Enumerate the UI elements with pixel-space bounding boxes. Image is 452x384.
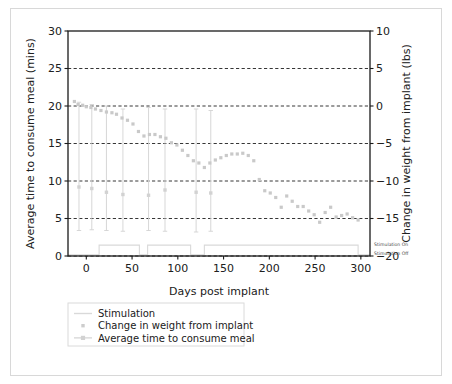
weight-marker bbox=[89, 106, 92, 109]
weight-marker bbox=[73, 100, 76, 103]
stimulation-step-line bbox=[68, 245, 370, 255]
series-average-time-to-consume-meal bbox=[77, 102, 213, 232]
weight-marker bbox=[76, 103, 79, 106]
weight-marker bbox=[115, 113, 118, 116]
weight-marker bbox=[94, 107, 97, 110]
weight-marker bbox=[225, 154, 228, 157]
weight-marker bbox=[230, 152, 233, 155]
legend-marker-weight bbox=[81, 324, 84, 327]
tick-label-bottom-150: 150 bbox=[213, 262, 234, 275]
weight-marker bbox=[126, 119, 129, 122]
weight-marker bbox=[340, 214, 343, 217]
tick-label-right-5: 5 bbox=[376, 62, 383, 75]
weight-marker bbox=[203, 166, 206, 169]
tick-label-bottom-300: 300 bbox=[350, 262, 371, 275]
weight-marker bbox=[110, 111, 113, 114]
weight-marker bbox=[219, 156, 222, 159]
weight-marker bbox=[269, 191, 272, 194]
legend-label-1: Change in weight from implant bbox=[98, 320, 253, 331]
weight-marker bbox=[357, 218, 360, 221]
weight-marker bbox=[313, 213, 316, 216]
tick-label-bottom-200: 200 bbox=[259, 262, 280, 275]
weight-marker bbox=[137, 130, 140, 133]
meal-marker bbox=[105, 191, 108, 194]
series-change-in-weight-from-implant bbox=[73, 100, 360, 224]
weight-marker bbox=[197, 161, 200, 164]
weight-marker bbox=[159, 135, 162, 138]
weight-marker bbox=[148, 133, 151, 136]
y-axis-title-left: Average time to consume meal (mins) bbox=[24, 38, 37, 249]
weight-marker bbox=[99, 109, 102, 112]
weight-marker bbox=[170, 141, 173, 144]
weight-marker bbox=[120, 116, 123, 119]
tick-label-left-0: 0 bbox=[55, 250, 62, 263]
meal-marker bbox=[121, 193, 124, 196]
stimulation-on-label: Stimulation On bbox=[374, 242, 408, 247]
tick-label-left-30: 30 bbox=[48, 25, 62, 38]
weight-marker bbox=[351, 216, 354, 219]
weight-marker bbox=[241, 152, 244, 155]
weight-marker bbox=[252, 159, 255, 162]
y-axis-title-right: Change in weight from implant (lbs) bbox=[400, 44, 413, 243]
tick-label-right--15: −15 bbox=[376, 212, 399, 225]
weight-marker bbox=[142, 134, 145, 137]
weight-marker bbox=[302, 205, 305, 208]
weight-marker bbox=[285, 194, 288, 197]
legend-label-0: Stimulation bbox=[98, 308, 155, 319]
weight-marker bbox=[214, 158, 217, 161]
tick-label-bottom-50: 50 bbox=[125, 262, 139, 275]
tick-label-left-5: 5 bbox=[55, 212, 62, 225]
weight-marker bbox=[153, 133, 156, 136]
legend-label-2: Average time to consume meal bbox=[98, 333, 255, 344]
chart-canvas: 051015202530−20−15−10−505100501001502002… bbox=[0, 0, 452, 384]
legend-marker-meal bbox=[81, 336, 85, 340]
weight-marker bbox=[192, 159, 195, 162]
weight-marker bbox=[247, 154, 250, 157]
chart-figure: 051015202530−20−15−10−505100501001502002… bbox=[0, 0, 452, 384]
weight-marker bbox=[181, 149, 184, 152]
weight-marker bbox=[263, 189, 266, 192]
tick-label-right--10: −10 bbox=[376, 175, 399, 188]
tick-label-left-15: 15 bbox=[48, 137, 62, 150]
weight-marker bbox=[329, 206, 332, 209]
tick-label-right-0: 0 bbox=[376, 100, 383, 113]
weight-marker bbox=[164, 137, 167, 140]
tick-label-left-25: 25 bbox=[48, 62, 62, 75]
tick-label-left-10: 10 bbox=[48, 175, 62, 188]
tick-label-bottom-0: 0 bbox=[83, 262, 90, 275]
weight-marker bbox=[307, 209, 310, 212]
weight-marker bbox=[81, 104, 84, 107]
weight-marker bbox=[85, 105, 88, 108]
meal-marker bbox=[147, 194, 150, 197]
weight-marker bbox=[274, 196, 277, 199]
weight-marker bbox=[335, 215, 338, 218]
weight-marker bbox=[324, 211, 327, 214]
weight-marker bbox=[296, 205, 299, 208]
weight-marker bbox=[208, 161, 211, 164]
tick-label-right-10: 10 bbox=[376, 25, 390, 38]
weight-marker bbox=[175, 143, 178, 146]
meal-marker bbox=[194, 191, 197, 194]
weight-marker bbox=[236, 152, 239, 155]
weight-marker bbox=[105, 110, 108, 113]
weight-marker bbox=[258, 178, 261, 181]
tick-label-bottom-100: 100 bbox=[167, 262, 188, 275]
weight-marker bbox=[280, 206, 283, 209]
tick-label-bottom-250: 250 bbox=[305, 262, 326, 275]
meal-marker bbox=[163, 188, 166, 191]
meal-marker bbox=[90, 187, 93, 190]
stimulation-off-label: Stimulation Off bbox=[374, 251, 409, 256]
x-axis-title: Days post implant bbox=[169, 285, 270, 298]
meal-marker bbox=[209, 191, 212, 194]
weight-marker bbox=[131, 122, 134, 125]
weight-marker bbox=[186, 154, 189, 157]
meal-marker bbox=[77, 185, 80, 188]
weight-marker bbox=[346, 212, 349, 215]
weight-marker bbox=[291, 200, 294, 203]
tick-label-left-20: 20 bbox=[48, 100, 62, 113]
tick-label-right--5: −5 bbox=[376, 137, 392, 150]
weight-marker bbox=[318, 221, 321, 224]
